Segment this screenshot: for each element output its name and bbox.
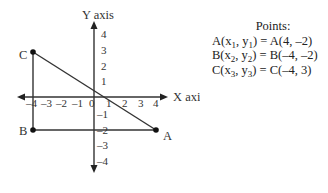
points-title: Points: (212, 19, 328, 34)
y-tick: –3 (96, 139, 109, 151)
y-tick: 2 (101, 60, 107, 72)
point-row-c: C(x3, y3) = C(–4, 3) (212, 63, 328, 78)
x-tick-labels: –4 –3 –2 –1 0 1 2 3 4 (25, 97, 159, 109)
x-subscript: 3 (231, 69, 236, 79)
point-row-a: A(x1, y1) = A(4, –2) (212, 34, 328, 49)
point-name: A (212, 34, 221, 48)
x-tick: –4 (25, 97, 38, 109)
y-axis-up-arrow-icon (91, 21, 98, 29)
x-axis-label: X axis (173, 90, 200, 104)
vertex-a (153, 127, 159, 133)
vertex-label-b: B (19, 124, 27, 138)
vertex-b (30, 127, 36, 133)
x-tick: –1 (71, 97, 83, 109)
y-subscript: 3 (248, 69, 253, 79)
point-name: C (212, 63, 220, 77)
x-tick: 4 (153, 97, 159, 109)
vertex-label-c: C (19, 48, 27, 62)
y-tick: 4 (101, 28, 107, 40)
x-tick: 2 (122, 97, 128, 109)
point-name: B (212, 48, 220, 62)
vertices: A B C (19, 48, 172, 143)
point-value: A(4, –2) (270, 34, 312, 48)
x-tick: –2 (55, 97, 67, 109)
x-tick: –3 (40, 97, 53, 109)
y-tick: 1 (101, 75, 107, 87)
x-axis-left-arrow-icon (17, 94, 25, 101)
x-tick: 0 (89, 97, 95, 109)
points-panel: Points: A(x1, y1) = A(4, –2) B(x2, y2) =… (212, 19, 328, 77)
coordinate-plane: X axis Y axis –4 –3 –2 –1 0 1 2 3 4 4 3 … (0, 0, 200, 193)
x-axis-right-arrow-icon (160, 94, 168, 101)
y-tick: 3 (101, 44, 107, 56)
point-row-b: B(x2, y2) = B(–4, –2) (212, 48, 328, 63)
x-tick: 3 (138, 97, 144, 109)
point-value: B(–4, –2) (270, 48, 318, 62)
vertex-label-a: A (163, 129, 172, 143)
y-tick: –1 (96, 108, 108, 120)
vertex-c (30, 49, 36, 55)
y-tick: –4 (96, 155, 109, 167)
point-value: C(–4, 3) (270, 63, 312, 77)
y-axis-label: Y axis (82, 8, 114, 22)
